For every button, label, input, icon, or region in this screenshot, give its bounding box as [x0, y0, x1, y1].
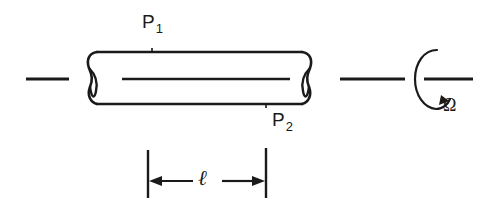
label-omega: Ω	[443, 96, 456, 114]
label-p2-subscript: 2	[286, 119, 293, 134]
pipe-diagram-svg	[0, 0, 492, 203]
label-p1: P1	[142, 12, 162, 31]
label-p2: P2	[272, 110, 292, 129]
label-p1-subscript: 1	[156, 21, 163, 36]
dimension-arrowhead-left-icon	[149, 176, 162, 186]
label-p2-symbol: P	[272, 109, 285, 130]
label-length: ℓ	[198, 168, 207, 189]
figure-container: P1 P2 Ω ℓ	[0, 0, 492, 203]
label-p1-symbol: P	[142, 11, 155, 32]
dimension-arrowhead-right-icon	[252, 176, 265, 186]
